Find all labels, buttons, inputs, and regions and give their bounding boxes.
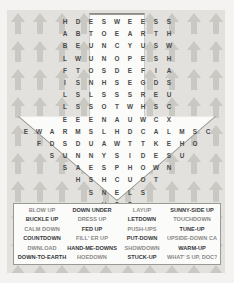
grid-letter[interactable]: C [163, 101, 176, 113]
grid-letter[interactable]: E [72, 114, 85, 126]
grid-letter[interactable]: S [163, 150, 176, 162]
word-list-item[interactable]: WARM-UP [167, 244, 217, 253]
grid-letter[interactable]: L [59, 89, 72, 101]
grid-letter[interactable]: S [150, 101, 163, 113]
grid-letter[interactable]: E [85, 16, 98, 28]
grid-letter[interactable]: O [111, 53, 124, 65]
grid-letter[interactable]: W [33, 126, 46, 138]
grid-letter[interactable]: K [150, 138, 163, 150]
grid-letter[interactable]: N [85, 150, 98, 162]
grid-letter[interactable]: X [163, 114, 176, 126]
grid-letter[interactable]: O [137, 174, 150, 186]
grid-letter[interactable]: R [137, 89, 150, 101]
grid-letter[interactable]: E [163, 138, 176, 150]
grid-letter[interactable]: E [150, 150, 163, 162]
grid-letter[interactable]: N [72, 150, 85, 162]
grid-letter[interactable]: T [137, 138, 150, 150]
grid-letter[interactable]: S [46, 150, 59, 162]
grid-letter[interactable]: Y [124, 40, 137, 52]
grid-letter[interactable]: S [72, 101, 85, 113]
grid-letter[interactable]: O [85, 65, 98, 77]
grid-letter[interactable]: R [137, 28, 150, 40]
grid-letter[interactable]: S [150, 16, 163, 28]
word-list-item[interactable]: UPSIDE-DOWN CAKE [167, 234, 217, 243]
grid-letter[interactable]: R [59, 126, 72, 138]
grid-letter[interactable]: H [111, 126, 124, 138]
grid-letter[interactable]: A [46, 126, 59, 138]
grid-letter[interactable]: M [176, 126, 189, 138]
word-list-item[interactable]: TOUCHDOWN [167, 215, 217, 224]
grid-letter[interactable]: U [176, 150, 189, 162]
grid-letter[interactable]: H [59, 16, 72, 28]
grid-letter[interactable]: D [137, 150, 150, 162]
grid-letter[interactable]: C [111, 174, 124, 186]
grid-letter[interactable]: I [124, 150, 137, 162]
grid-letter[interactable]: N [98, 114, 111, 126]
word-list-item[interactable]: DOWN-TO-EARTH [17, 253, 67, 262]
grid-letter[interactable]: N [163, 162, 176, 174]
grid-letter[interactable]: U [163, 89, 176, 101]
word-list-item[interactable]: BUCKLE UP [17, 215, 67, 224]
word-list-item[interactable]: HOEDOWN [67, 253, 117, 262]
grid-letter[interactable]: S [85, 101, 98, 113]
grid-letter[interactable]: S [189, 126, 202, 138]
word-list-item[interactable]: FILL' ER UP [67, 234, 117, 243]
grid-letter[interactable]: S [59, 138, 72, 150]
grid-letter[interactable]: T [111, 101, 124, 113]
grid-letter[interactable]: U [85, 40, 98, 52]
grid-letter[interactable]: L [98, 126, 111, 138]
grid-letter[interactable]: T [85, 28, 98, 40]
grid-letter[interactable]: A [72, 162, 85, 174]
grid-letter[interactable]: D [111, 65, 124, 77]
word-list-item[interactable]: LAYUP [117, 206, 167, 215]
grid-letter[interactable]: T [72, 65, 85, 77]
grid-letter[interactable]: E [85, 114, 98, 126]
grid-letter[interactable]: S [85, 174, 98, 186]
grid-letter[interactable]: Y [98, 150, 111, 162]
word-list-item[interactable]: PUT-DOWN [117, 234, 167, 243]
grid-letter[interactable]: N [98, 40, 111, 52]
grid-letter[interactable]: E [137, 16, 150, 28]
grid-letter[interactable]: S [137, 187, 150, 199]
grid-letter[interactable]: T [150, 28, 163, 40]
grid-letter[interactable]: N [98, 187, 111, 199]
word-list-item[interactable]: PUSH-UPS [117, 225, 167, 234]
grid-letter[interactable]: S [111, 89, 124, 101]
grid-letter[interactable]: L [59, 101, 72, 113]
grid-letter[interactable]: C [150, 114, 163, 126]
word-list-item[interactable]: DRESS UP [67, 215, 117, 224]
grid-letter[interactable]: I [150, 65, 163, 77]
grid-letter[interactable]: S [85, 187, 98, 199]
grid-letter[interactable]: E [150, 89, 163, 101]
grid-letter[interactable]: M [72, 126, 85, 138]
grid-letter[interactable]: A [150, 126, 163, 138]
grid-letter[interactable]: L [163, 126, 176, 138]
grid-letter[interactable]: W [111, 16, 124, 28]
grid-letter[interactable]: E [137, 53, 150, 65]
grid-letter[interactable]: A [124, 28, 137, 40]
grid-letter[interactable]: E [111, 28, 124, 40]
word-list-item[interactable]: DOWN UNDER [67, 206, 117, 215]
grid-letter[interactable]: A [98, 138, 111, 150]
grid-letter[interactable]: E [111, 187, 124, 199]
word-list-item[interactable]: STUCK-UP [117, 253, 167, 262]
grid-letter[interactable]: O [98, 101, 111, 113]
word-list-item[interactable]: WHAT' S UP, DOC? [167, 253, 217, 262]
grid-letter[interactable]: S [163, 16, 176, 28]
word-list-item[interactable]: SUNNY-SIDE UP [167, 206, 217, 215]
grid-letter[interactable]: U [85, 53, 98, 65]
grid-letter[interactable]: I [59, 77, 72, 89]
grid-letter[interactable]: L [124, 187, 137, 199]
grid-letter[interactable]: E [124, 77, 137, 89]
grid-letter[interactable]: S [85, 126, 98, 138]
grid-letter[interactable]: H [124, 162, 137, 174]
grid-letter[interactable]: F [33, 138, 46, 150]
grid-letter[interactable]: U [59, 150, 72, 162]
grid-letter[interactable]: E [124, 65, 137, 77]
grid-letter[interactable]: D [124, 126, 137, 138]
grid-letter[interactable]: S [150, 53, 163, 65]
grid-letter[interactable]: S [98, 89, 111, 101]
grid-letter[interactable]: F [59, 65, 72, 77]
grid-letter[interactable]: D [46, 138, 59, 150]
grid-letter[interactable]: O [98, 28, 111, 40]
